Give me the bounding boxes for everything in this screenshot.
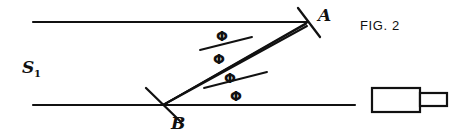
beam-axes-group bbox=[33, 22, 355, 105]
source-label: S bbox=[22, 57, 34, 77]
source-label-group: S 1 bbox=[22, 57, 41, 79]
figure-caption: FIG. 2 bbox=[360, 18, 400, 33]
angle-labels-group: Φ Φ Φ Φ bbox=[213, 28, 242, 104]
detector-nozzle bbox=[420, 93, 447, 106]
source-label-subscript: 1 bbox=[34, 68, 41, 79]
point-b-label: B bbox=[170, 113, 185, 133]
phi-upper-above-label: Φ bbox=[216, 28, 228, 44]
point-a-label: A bbox=[316, 5, 331, 25]
phi-lower-below-label: Φ bbox=[230, 88, 242, 104]
phi-lower-above-label: Φ bbox=[224, 70, 236, 86]
phi-upper-below-label: Φ bbox=[213, 51, 225, 67]
optical-ray-diagram-canvas: Φ Φ Φ Φ A B S 1 FIG. 2 bbox=[0, 0, 452, 137]
detector-body bbox=[372, 88, 420, 112]
figure-2-diagram: Φ Φ Φ Φ A B S 1 FIG. 2 bbox=[0, 0, 452, 137]
detector-assembly bbox=[372, 88, 447, 112]
